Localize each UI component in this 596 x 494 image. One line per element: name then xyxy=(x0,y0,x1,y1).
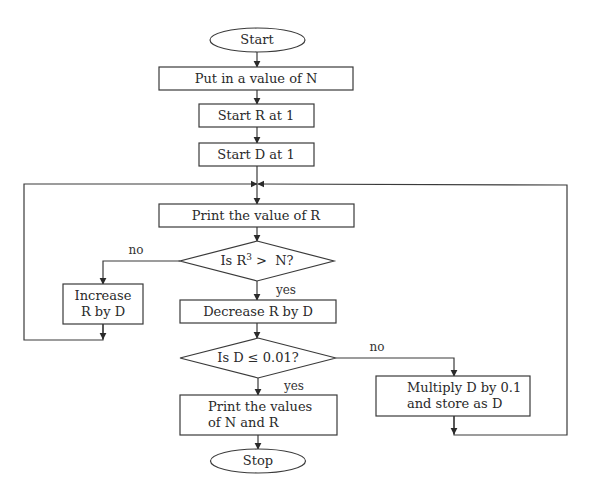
flowchart: Start Put in a value of N Start R at 1 S… xyxy=(0,0,596,494)
check-cube-prefix: Is R xyxy=(220,253,246,268)
init-r-label: Start R at 1 xyxy=(218,108,295,124)
edge-label-d-yes: yes xyxy=(284,378,304,394)
print-r-label: Print the value of R xyxy=(192,208,320,224)
arrow-d-no xyxy=(336,358,454,376)
edge-label-cube-yes: yes xyxy=(276,282,296,298)
multiply-d-line2: and store as D xyxy=(407,396,521,412)
print-nr-label: Print the values of N and R xyxy=(208,399,312,431)
increase-r-label: Increase R by D xyxy=(75,288,132,320)
multiply-d-line1: Multiply D by 0.1 xyxy=(407,380,521,396)
stop-label: Stop xyxy=(243,453,273,469)
decrease-r-label: Decrease R by D xyxy=(203,304,313,320)
increase-r-line2: R by D xyxy=(75,304,132,320)
edge-label-cube-no: no xyxy=(129,242,144,258)
check-cube-label: Is R3 > N? xyxy=(220,253,293,269)
multiply-d-label: Multiply D by 0.1 and store as D xyxy=(407,380,521,412)
input-n-label: Put in a value of N xyxy=(195,71,318,87)
increase-r-line1: Increase xyxy=(75,288,132,304)
arrow-cube-no xyxy=(103,261,180,284)
check-cube-suffix: > N? xyxy=(252,253,294,268)
check-d-label: Is D ≤ 0.01? xyxy=(217,350,298,366)
init-d-label: Start D at 1 xyxy=(217,147,294,163)
start-label: Start xyxy=(240,32,273,48)
edge-label-d-no: no xyxy=(370,339,385,355)
print-nr-line1: Print the values xyxy=(208,399,312,415)
print-nr-line2: of N and R xyxy=(208,415,312,431)
